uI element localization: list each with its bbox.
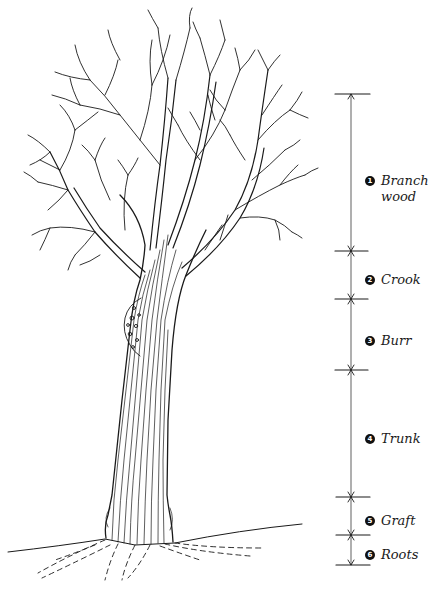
part-label-text: Trunk — [381, 431, 421, 447]
part-label-text: Crook — [381, 272, 421, 288]
tree-diagram: 1 Branch wood 2 Crook 3 Burr 4 Trunk 5 G… — [0, 0, 439, 600]
part-number-badge: 3 — [365, 336, 375, 346]
branch-wood — [24, 8, 318, 270]
part-label-text: Burr — [381, 333, 411, 349]
part-number-badge: 2 — [365, 275, 375, 285]
tree-illustration — [0, 0, 439, 600]
part-number-badge: 4 — [365, 434, 375, 444]
part-number-badge: 6 — [365, 550, 375, 560]
roots-dashed — [38, 540, 262, 580]
part-label-text-line2: wood — [381, 189, 429, 205]
part-label-text: Roots — [381, 547, 418, 563]
part-label-text: Branch — [381, 173, 429, 189]
part-number-badge: 1 — [365, 176, 375, 186]
part-label-text: Graft — [381, 513, 415, 529]
burr — [124, 298, 141, 356]
trunk-grain — [106, 235, 182, 544]
part-number-badge: 5 — [365, 516, 375, 526]
measurement-bar — [335, 94, 370, 565]
